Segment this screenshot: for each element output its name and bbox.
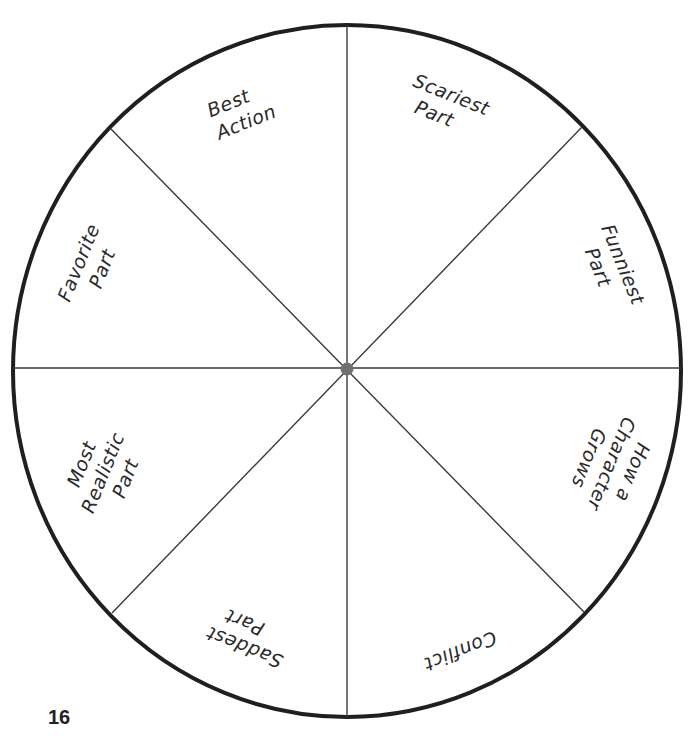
segment-label-saddest-part: Saddest Part <box>197 599 294 673</box>
segment-label-best-action: Best Action <box>202 77 279 144</box>
segment-label-conflict: Conflict <box>420 627 500 676</box>
segment-label-scariest-part: Scariest Part <box>401 69 499 144</box>
segment-label-funniest-part: Funniest Part <box>575 221 652 323</box>
story-wheel: Best Action Scariest Part Funniest Part … <box>0 0 695 740</box>
segment-label-most-realistic-part: Most Realistic Part <box>55 414 152 524</box>
page-number: 16 <box>48 706 70 729</box>
wheel-hub <box>341 363 354 376</box>
segment-label-how-a-character-grows: How a Character Grows <box>559 406 661 529</box>
segment-label-favorite-part: Favorite Part <box>53 214 129 313</box>
